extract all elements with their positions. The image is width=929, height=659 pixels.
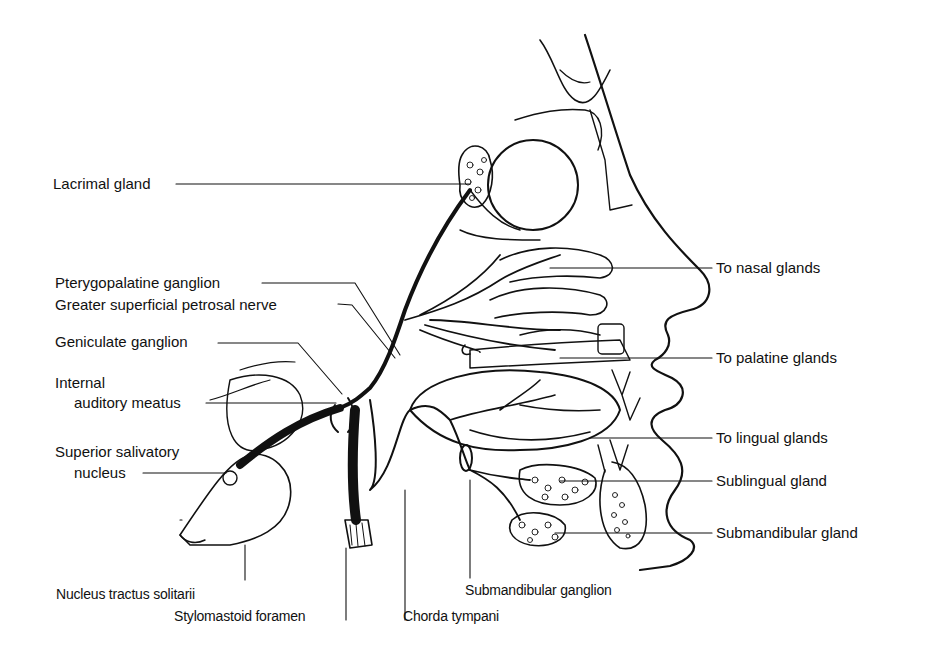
label-chorda-tympani: Chorda tympani [403, 608, 499, 625]
label-geniculate-ganglion: Geniculate ganglion [55, 333, 188, 350]
label-sublingual-gland: Sublingual gland [716, 472, 827, 489]
label-to-lingual-glands: To lingual glands [716, 429, 828, 446]
mandible [600, 462, 646, 549]
anatomical-drawing [0, 0, 929, 659]
chorda-tympani [370, 400, 470, 490]
label-internal-auditory-meatus-line2: auditory meatus [74, 394, 181, 411]
anatomy-diagram: Lacrimal gland Pterygopalatine ganglion … [0, 0, 929, 659]
label-submandibular-ganglion: Submandibular ganglion [465, 582, 612, 599]
brainstem [180, 454, 291, 545]
label-pterygopalatine-ganglion: Pterygopalatine ganglion [55, 274, 220, 291]
label-superior-salivatory-nucleus-line2: nucleus [74, 464, 126, 481]
label-superior-salivatory-nucleus-line1: Superior salivatory [55, 443, 179, 460]
label-greater-superficial-petrosal-nerve: Greater superficial petrosal nerve [55, 296, 277, 313]
label-stylomastoid-foramen: Stylomastoid foramen [174, 608, 305, 625]
facial-nerve-descending [353, 410, 356, 520]
temporal-bone [227, 375, 303, 451]
eyeball [488, 140, 578, 230]
leader-lines [143, 184, 712, 620]
label-to-nasal-glands: To nasal glands [716, 259, 820, 276]
label-internal-auditory-meatus-line1: Internal [55, 374, 105, 391]
skull-outline [540, 40, 610, 103]
label-lacrimal-gland: Lacrimal gland [53, 175, 151, 192]
face-profile [585, 35, 709, 570]
label-nucleus-tractus-solitarii: Nucleus tractus solitarii [56, 586, 195, 603]
label-to-palatine-glands: To palatine glands [716, 349, 837, 366]
label-submandibular-gland: Submandibular gland [716, 524, 858, 541]
